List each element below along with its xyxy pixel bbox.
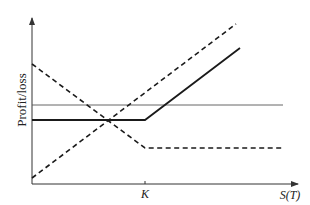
thick-payoff-line: [32, 48, 240, 120]
strike-label: K: [140, 187, 150, 201]
dashed-descending-line: [32, 64, 283, 148]
payoff-diagram: Profit/loss K S(T): [0, 0, 310, 205]
x-axis-label: S(T): [280, 188, 301, 202]
dashed-ascending-line: [32, 24, 236, 178]
y-axis-label: Profit/loss: [14, 73, 29, 126]
